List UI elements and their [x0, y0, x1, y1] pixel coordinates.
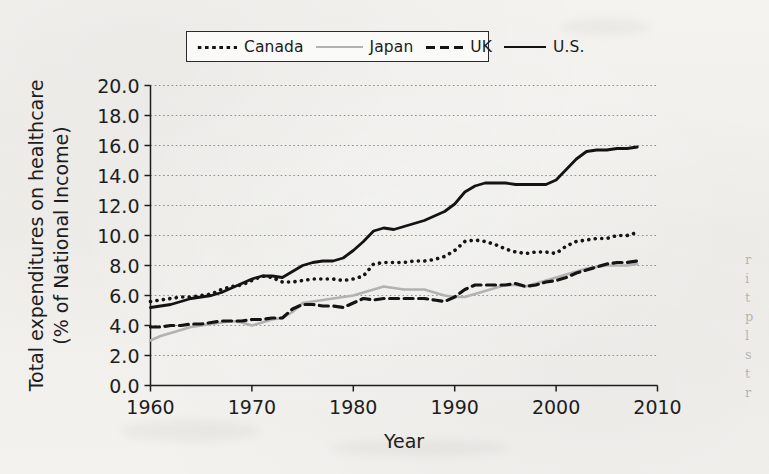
x-tick-label: 2000 [532, 396, 580, 418]
y-tick-label: 16.0 [97, 135, 139, 157]
margin-bleed-fragment: s [745, 345, 767, 364]
series-line-uk [151, 261, 638, 327]
y-tick-label: 20.0 [97, 75, 139, 97]
y-tick-label: 0.0 [109, 375, 139, 397]
y-tick-label: 6.0 [109, 285, 139, 307]
x-axis-tick-labels: 196019701980199020002010 [126, 396, 681, 418]
series-line-japan [151, 264, 638, 341]
margin-bleed-fragment: r [745, 250, 767, 269]
line-chart: 0.02.04.06.08.010.012.014.016.018.020.0 … [0, 0, 769, 474]
y-tick-label: 4.0 [109, 315, 139, 337]
margin-bleed-fragment: t [745, 288, 767, 307]
margin-bleed-fragment: i [745, 269, 767, 288]
x-tick-label: 1990 [431, 396, 479, 418]
x-tick-label: 2010 [633, 396, 681, 418]
margin-bleed-fragment: r [745, 383, 767, 402]
data-series-layer [151, 147, 638, 341]
y-axis-title-line2: (% of National Income) [50, 126, 72, 344]
x-tick-label: 1980 [329, 396, 377, 418]
margin-bleed-fragment: t [745, 364, 767, 383]
y-axis-tick-labels: 0.02.04.06.08.010.012.014.016.018.020.0 [97, 75, 139, 397]
margin-bleed-fragment: l [745, 326, 767, 345]
grid-lines [151, 86, 658, 386]
margin-bleed-text: ritplstr [745, 250, 767, 402]
x-tick-label: 1960 [126, 396, 174, 418]
y-tick-label: 18.0 [97, 105, 139, 127]
y-tick-label: 2.0 [109, 345, 139, 367]
y-tick-label: 14.0 [97, 165, 139, 187]
series-line-us [151, 147, 638, 308]
x-axis-title: Year [383, 430, 424, 452]
y-tick-label: 12.0 [97, 195, 139, 217]
y-tick-label: 8.0 [109, 255, 139, 277]
y-tick-label: 10.0 [97, 225, 139, 247]
y-axis-title-line1: Total expenditures on healthcare [25, 80, 47, 393]
chart-svg: 0.02.04.06.08.010.012.014.016.018.020.0 … [0, 0, 769, 474]
margin-bleed-fragment: p [745, 307, 767, 326]
figure-page: Canada Japan UK U.S. 0.02.04.06.08.010.0… [0, 0, 769, 474]
chart-axes [145, 86, 658, 392]
x-tick-label: 1970 [228, 396, 276, 418]
